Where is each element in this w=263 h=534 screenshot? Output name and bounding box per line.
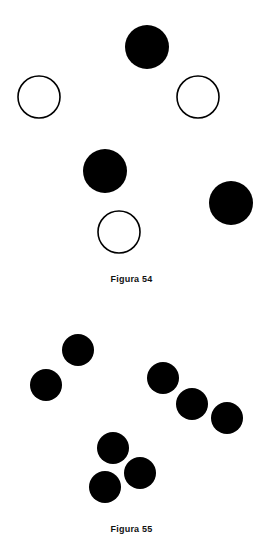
filled-dot (211, 402, 243, 434)
open-circle (177, 76, 219, 118)
figure-54-diagram (18, 25, 253, 253)
filled-circle (209, 181, 253, 225)
filled-dot (124, 457, 156, 489)
filled-circle (125, 25, 169, 69)
book-page: Figura 54 Figura 55 (0, 0, 263, 534)
filled-dot (89, 471, 121, 503)
filled-dot (62, 334, 94, 366)
filled-dot (30, 369, 62, 401)
open-circle (98, 211, 140, 253)
filled-circle (83, 149, 127, 193)
figure-55-caption: Figura 55 (0, 524, 263, 534)
figure-54-caption: Figura 54 (0, 274, 263, 284)
filled-dot (97, 432, 129, 464)
figure-55-diagram (30, 334, 243, 503)
filled-dot (176, 388, 208, 420)
open-circle (18, 76, 60, 118)
figures-canvas (0, 0, 263, 534)
filled-dot (147, 362, 179, 394)
